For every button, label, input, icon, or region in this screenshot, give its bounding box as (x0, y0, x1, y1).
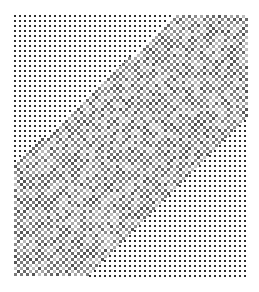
halftone-pattern (0, 0, 259, 292)
halftone-image (0, 0, 259, 292)
